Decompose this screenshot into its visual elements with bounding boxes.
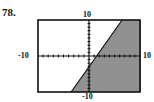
x-max-label: 10	[143, 52, 151, 60]
y-max-label: 10	[83, 11, 91, 19]
y-min-label: -10	[82, 93, 93, 101]
problem-number: 78.	[2, 6, 16, 18]
calculator-graph	[37, 19, 141, 93]
x-min-label: -10	[18, 52, 29, 60]
